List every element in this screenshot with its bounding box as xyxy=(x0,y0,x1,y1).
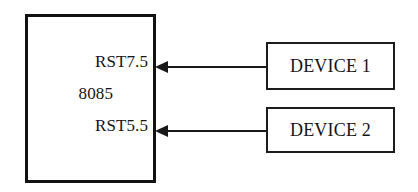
diagram-canvas: RST7.5 8085 RST5.5 DEVICE 1 DEVICE 2 xyxy=(0,0,418,192)
cpu-pin-label-rst75: RST7.5 xyxy=(0,53,148,70)
device-block-2: DEVICE 2 xyxy=(266,107,395,153)
cpu-pin-label-rst55: RST5.5 xyxy=(0,117,148,134)
connector-line xyxy=(166,130,267,132)
device-label-1: DEVICE 1 xyxy=(290,57,371,75)
device-label-2: DEVICE 2 xyxy=(290,121,371,139)
connector-arrow-device2 xyxy=(155,125,267,137)
connector-line xyxy=(166,66,267,68)
connector-arrow-device1 xyxy=(155,61,267,73)
cpu-chip-label: 8085 xyxy=(0,85,113,102)
device-block-1: DEVICE 1 xyxy=(266,42,395,90)
